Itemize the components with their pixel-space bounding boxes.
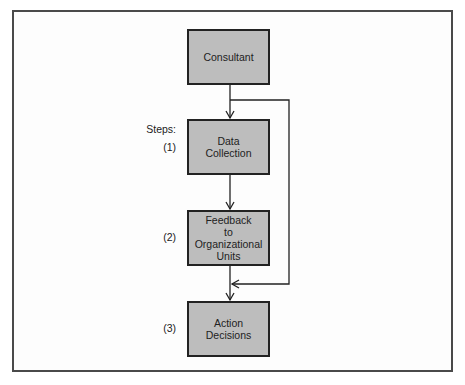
feedback-label-line2: to (224, 226, 233, 238)
action-decisions-label-line1: Action (214, 317, 243, 329)
data-collection-box: Data Collection (187, 119, 270, 175)
action-decisions-label-line2: Decisions (206, 329, 252, 341)
step-1-label: (1) (116, 141, 176, 153)
data-collection-label-line1: Data (217, 135, 239, 147)
step-3-label: (3) (116, 322, 176, 334)
steps-heading: Steps: (116, 123, 176, 135)
feedback-label-line3: Organizational (195, 238, 263, 250)
consultant-label: Consultant (203, 51, 253, 63)
feedback-label-line1: Feedback (205, 214, 251, 226)
feedback-label-line4: Units (217, 250, 241, 262)
step-2-label: (2) (116, 231, 176, 243)
feedback-box: Feedback to Organizational Units (187, 210, 270, 266)
data-collection-label-line2: Collection (205, 147, 251, 159)
action-decisions-box: Action Decisions (187, 301, 270, 357)
consultant-box: Consultant (187, 29, 270, 85)
